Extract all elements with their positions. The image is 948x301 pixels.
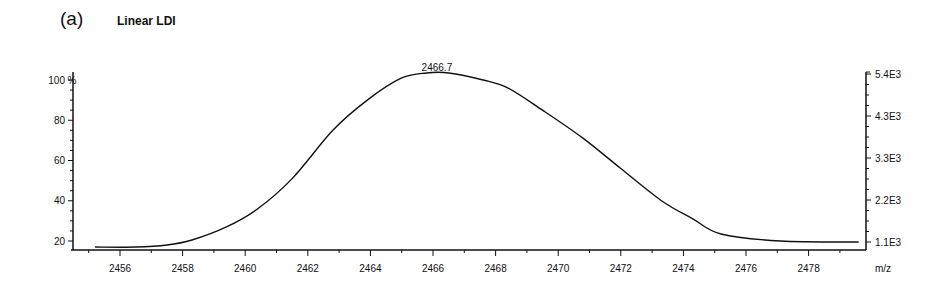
x-tick-label: 2470 (547, 263, 570, 274)
y-left-tick-label: 80 (54, 115, 66, 126)
y-right-tick-label: 4.3E3 (875, 111, 902, 122)
y-left-tick-label: 100 (48, 75, 65, 86)
x-tick-label: 2468 (484, 263, 507, 274)
x-tick-label: 2462 (297, 263, 320, 274)
y-left-tick-label: 20 (54, 236, 66, 247)
y-left-tick-label: 40 (54, 195, 66, 206)
x-axis-label: m/z (875, 263, 891, 274)
spectrum-line (95, 72, 859, 247)
y-right-tick-label: 3.3E3 (875, 153, 902, 164)
y-right-tick-label: 5.4E3 (875, 69, 902, 80)
x-tick-label: 2474 (672, 263, 695, 274)
y-left-tick-label: 60 (54, 155, 66, 166)
x-tick-label: 2476 (735, 263, 758, 274)
y-right-tick-label: 2.2E3 (875, 195, 902, 206)
spectrum-chart: 20406080100%1.1E32.2E33.3E34.3E35.4E3245… (0, 0, 948, 301)
x-tick-label: 2458 (171, 263, 194, 274)
peak-label: 2466.7 (422, 62, 453, 73)
x-tick-label: 2466 (422, 263, 445, 274)
x-tick-label: 2464 (359, 263, 382, 274)
x-tick-label: 2460 (234, 263, 257, 274)
y-left-unit-label: % (68, 75, 77, 86)
x-tick-label: 2478 (797, 263, 820, 274)
x-tick-label: 2472 (610, 263, 633, 274)
y-right-tick-label: 1.1E3 (875, 237, 902, 248)
x-tick-label: 2456 (109, 263, 132, 274)
